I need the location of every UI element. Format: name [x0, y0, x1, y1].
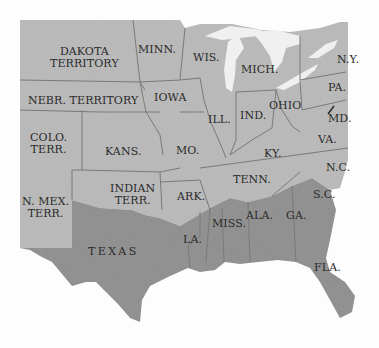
label-ind: IND. — [240, 110, 266, 122]
label-kans: KANS. — [105, 146, 141, 158]
label-va: VA. — [318, 134, 337, 146]
label-mich: MICH. — [241, 64, 279, 76]
civil-war-map: DAKOTA TERRITORY MINN. WIS. MICH. N.Y. N… — [0, 0, 379, 348]
label-la: LA. — [183, 234, 202, 246]
label-md: MD. — [328, 113, 352, 125]
label-indian-terr: INDIAN TERR. — [110, 183, 155, 207]
label-ark: ARK. — [177, 191, 205, 203]
label-ill: ILL. — [208, 114, 231, 126]
label-ala: ALA. — [246, 210, 273, 222]
label-iowa: IOWA — [154, 92, 186, 104]
label-nmex-terr: N. MEX. TERR. — [22, 196, 69, 220]
label-colo-terr: COLO. TERR. — [30, 132, 67, 156]
label-nc: N.C. — [326, 162, 350, 174]
label-ky: KY. — [264, 148, 282, 160]
label-dakota-territory: DAKOTA TERRITORY — [50, 46, 119, 70]
label-fla: FLA. — [314, 262, 341, 274]
label-mo: MO. — [176, 145, 199, 157]
label-tenn: TENN. — [233, 174, 271, 186]
label-miss: MISS. — [212, 218, 246, 230]
label-ohio: OHIO — [269, 100, 301, 112]
label-wis: WIS. — [193, 52, 220, 64]
label-sc: S.C. — [313, 189, 336, 201]
label-ga: GA. — [286, 210, 307, 222]
label-texas: TEXAS — [88, 246, 139, 258]
label-minn: MINN. — [138, 44, 176, 56]
label-pa: PA. — [328, 82, 346, 94]
label-nebr-territory: NEBR. TERRITORY — [28, 95, 138, 107]
label-ny: N.Y. — [337, 54, 359, 66]
